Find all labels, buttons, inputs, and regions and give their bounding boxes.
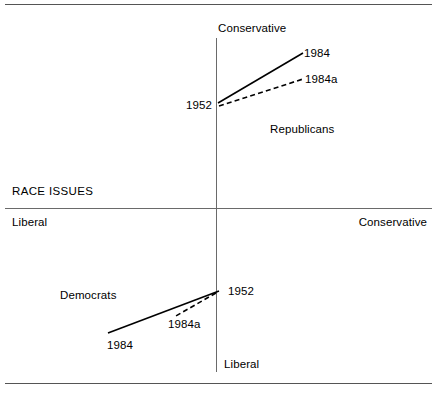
democrats-dashed-end-year-label: 1984a	[168, 318, 200, 331]
top-horizontal-rule	[5, 4, 432, 5]
democrats-solid-line	[108, 291, 219, 333]
axis-label-bottom-liberal: Liberal	[224, 358, 259, 371]
republicans-dashed-end-year-label: 1984a	[305, 73, 337, 86]
republicans-group-label: Republicans	[270, 123, 334, 136]
republicans-solid-line	[218, 53, 303, 103]
republicans-solid-end-year-label: 1984	[304, 47, 330, 60]
bottom-horizontal-rule	[5, 383, 432, 384]
axis-label-right-conservative: Conservative	[359, 216, 427, 229]
figure-title-race-issues: RACE ISSUES	[12, 185, 93, 198]
democrats-start-year-label: 1952	[228, 285, 254, 298]
vertical-axis	[216, 38, 217, 372]
democrats-solid-end-year-label: 1984	[107, 339, 133, 352]
republicans-start-year-label: 1952	[140, 99, 212, 112]
democrats-dashed-line	[174, 293, 216, 317]
race-issues-figure: Conservative RACE ISSUES Liberal Conserv…	[0, 0, 439, 395]
republicans-dashed-line	[219, 79, 303, 106]
horizontal-axis	[5, 208, 432, 209]
axis-label-left-liberal: Liberal	[12, 216, 47, 229]
axis-label-top-conservative: Conservative	[218, 22, 286, 35]
democrats-group-label: Democrats	[60, 289, 117, 302]
